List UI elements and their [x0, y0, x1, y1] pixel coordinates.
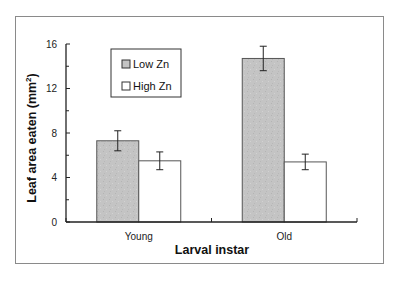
legend-swatch-high-zn — [122, 82, 130, 90]
x-category-label: Young — [125, 231, 153, 242]
y-tick-label: 8 — [51, 128, 57, 139]
bar-chart: 0481216 YoungOld Larval instar Leaf area… — [0, 0, 398, 281]
x-axis-title: Larval instar — [175, 243, 249, 257]
legend: Low Zn High Zn — [111, 49, 181, 97]
y-tick-label: 12 — [46, 83, 58, 94]
x-category-label: Old — [276, 231, 292, 242]
legend-label-high-zn: High Zn — [133, 80, 172, 92]
y-tick-label: 4 — [51, 172, 57, 183]
y-axis-title: Leaf area eaten (mm2) — [24, 73, 39, 203]
legend-swatch-low-zn — [122, 60, 130, 68]
y-tick-label: 0 — [51, 217, 57, 228]
legend-label-low-zn: Low Zn — [133, 58, 169, 70]
bar-low-zn — [97, 141, 139, 222]
y-tick-label: 16 — [46, 39, 58, 50]
bar-high-zn — [284, 162, 326, 222]
bar-low-zn — [242, 58, 284, 222]
